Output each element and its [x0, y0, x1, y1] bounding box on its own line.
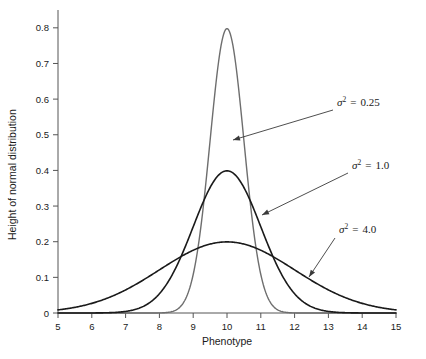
x-axis-ticks — [58, 313, 396, 318]
ann-var-025: σ2=0.25 — [233, 95, 380, 140]
y-axis-ticks — [53, 28, 58, 313]
y-axis-tick-labels: 00.10.20.30.40.50.60.70.8 — [36, 22, 49, 318]
x-tick-label: 12 — [289, 321, 300, 332]
x-tick-label: 7 — [123, 321, 128, 332]
x-axis-group: 56789101112131415 Phenotype — [55, 313, 401, 347]
y-tick-label: 0 — [44, 308, 49, 319]
y-tick-label: 0.7 — [36, 58, 49, 69]
x-tick-label: 10 — [222, 321, 233, 332]
y-tick-label: 0.1 — [36, 272, 49, 283]
annotation-arrowhead-icon — [262, 210, 269, 215]
x-tick-label: 13 — [323, 321, 334, 332]
distribution-curves — [58, 29, 396, 313]
sigma-exponent: 2 — [344, 222, 348, 231]
annotation-arrowhead-icon — [309, 270, 315, 277]
sigma-exponent: 2 — [357, 158, 361, 167]
y-tick-label: 0.4 — [36, 165, 49, 176]
normal-distribution-chart: 00.10.20.30.40.50.60.70.8 Height of norm… — [0, 0, 426, 359]
x-tick-label: 15 — [391, 321, 402, 332]
ann-var-40: σ2=4.0 — [309, 222, 377, 277]
x-axis-title: Phenotype — [202, 335, 252, 347]
equals-sign: = — [365, 159, 371, 171]
x-tick-label: 9 — [191, 321, 196, 332]
sigma-exponent: 2 — [342, 95, 346, 104]
variance-value: 0.25 — [360, 96, 380, 108]
equals-sign: = — [350, 96, 356, 108]
y-tick-label: 0.6 — [36, 94, 49, 105]
x-tick-label: 14 — [357, 321, 368, 332]
x-tick-label: 6 — [89, 321, 94, 332]
y-axis-title: Height of normal distribution — [6, 109, 18, 240]
x-tick-label: 8 — [157, 321, 162, 332]
variance-value: 4.0 — [362, 223, 376, 235]
annotation-leader-line — [233, 110, 333, 140]
y-tick-label: 0.2 — [36, 236, 49, 247]
annotation-arrowhead-icon — [233, 135, 240, 140]
curve-variance-4 — [58, 242, 396, 310]
y-tick-label: 0.5 — [36, 129, 49, 140]
annotation-leader-line — [309, 238, 335, 277]
y-tick-label: 0.3 — [36, 201, 49, 212]
annotation-label: σ2=1.0 — [352, 158, 390, 171]
x-tick-label: 11 — [256, 321, 266, 332]
variance-value: 1.0 — [375, 159, 389, 171]
equals-sign: = — [352, 223, 358, 235]
y-tick-label: 0.8 — [36, 22, 49, 33]
figure-container: 00.10.20.30.40.50.60.70.8 Height of norm… — [0, 0, 426, 359]
annotation-leader-line — [262, 173, 348, 215]
y-axis-group: 00.10.20.30.40.50.60.70.8 Height of norm… — [6, 10, 58, 319]
x-tick-label: 5 — [55, 321, 60, 332]
annotation-label: σ2=0.25 — [337, 95, 380, 108]
annotation-label: σ2=4.0 — [339, 222, 377, 235]
x-axis-tick-labels: 56789101112131415 — [55, 321, 401, 332]
ann-var-10: σ2=1.0 — [262, 158, 390, 215]
